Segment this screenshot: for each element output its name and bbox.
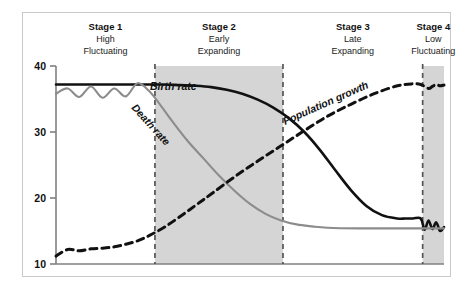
- demographic-transition-chart: 40302010 Stage 1HighFluctuatingStage 2Ea…: [0, 0, 473, 292]
- stage-title-2: Stage 2: [202, 21, 236, 32]
- stage-subtitle-line2-4: Fluctuating: [411, 46, 455, 56]
- stage-header-3: Stage 3LateExpanding: [332, 21, 375, 56]
- stage-header-4: Stage 4LowFluctuating: [411, 21, 455, 56]
- stage-subtitle-line2-1: Fluctuating: [83, 46, 127, 56]
- y-axis-tick-label-40: 40: [34, 60, 46, 72]
- stage-header-layer: Stage 1HighFluctuatingStage 2EarlyExpand…: [83, 21, 455, 56]
- stage-shading-4: [423, 66, 444, 264]
- stage-subtitle-line1-4: Low: [425, 34, 442, 44]
- y-axis-tick-label-10: 10: [34, 258, 46, 270]
- stage-shading-2: [155, 66, 283, 264]
- birth-rate-label: Birth rate: [150, 80, 197, 92]
- stage-subtitle-line1-2: Early: [209, 34, 230, 44]
- stage-header-2: Stage 2EarlyExpanding: [198, 21, 241, 56]
- figure-root: 40302010 Stage 1HighFluctuatingStage 2Ea…: [0, 0, 473, 292]
- stage-shading-layer: [155, 66, 444, 264]
- stage-subtitle-line1-3: Late: [344, 34, 362, 44]
- axis-tick-label-layer: 40302010: [34, 60, 46, 270]
- stage-subtitle-line2-3: Expanding: [332, 46, 375, 56]
- stage-header-1: Stage 1HighFluctuating: [83, 21, 127, 56]
- y-axis-tick-label-20: 20: [34, 192, 46, 204]
- stage-subtitle-line2-2: Expanding: [198, 46, 241, 56]
- y-axis-tick-label-30: 30: [34, 126, 46, 138]
- stage-title-4: Stage 4: [416, 21, 451, 32]
- stage-title-1: Stage 1: [89, 21, 124, 32]
- stage-title-3: Stage 3: [336, 21, 370, 32]
- stage-subtitle-line1-1: High: [96, 34, 115, 44]
